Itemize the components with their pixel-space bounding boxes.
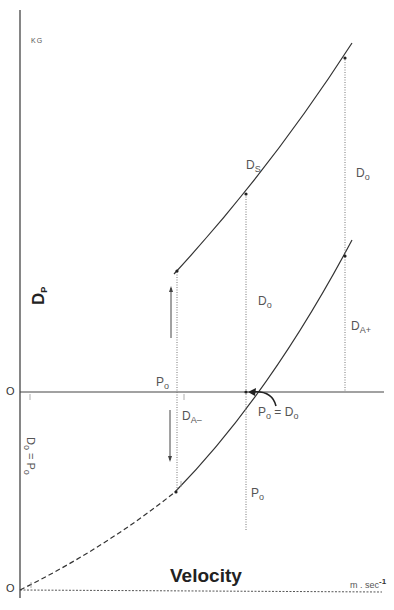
curve-da-dashed [20,492,175,590]
point-da-right [343,254,346,257]
label-po-bottom: Po [251,487,264,502]
do-equals-po-label: Do = Po [22,437,36,475]
zero-label-lower: O [6,583,15,594]
curve-ds [174,43,352,274]
label-ds: DS [246,159,261,174]
x-axis-unit: m . sec-1 [350,578,386,590]
curve-da-solid [175,240,352,492]
curved-arrow-head [248,388,256,396]
point-da-left [174,490,177,493]
point-ds-middle [244,192,247,195]
label-po-left: Po [156,376,169,391]
zero-label-upper: O [6,386,15,397]
x-axis-dashed [20,590,382,592]
label-do-middle: Do [258,295,272,310]
diagram-canvas [0,0,394,610]
point-ds-right [343,56,346,59]
curved-arrow [252,392,276,406]
label-da-minus: DA– [182,410,202,425]
y-axis-label: DP [30,287,49,305]
arrow-up-head [169,286,173,292]
point-ds-left [175,269,178,272]
y-unit-label: KG [31,37,43,44]
point-intersection [244,390,247,393]
arrow-down-head [168,456,172,462]
x-axis-label: Velocity [170,566,242,585]
label-da-plus: DA+ [351,320,371,335]
label-po-eq-do: Po = Do [258,406,298,421]
label-do-right: Do [356,167,370,182]
